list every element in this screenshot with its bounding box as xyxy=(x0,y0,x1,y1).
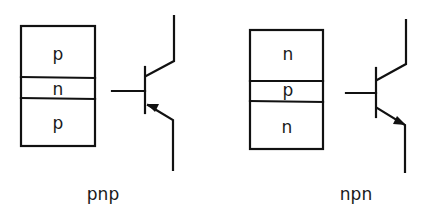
transistor-diagram: p n p pnp n p n npn xyxy=(0,0,431,218)
npn-layer-collector-label: n xyxy=(283,44,294,64)
pnp-caption: pnp xyxy=(87,184,119,204)
pnp-layer-base-label: n xyxy=(53,79,64,99)
npn-transistor-symbol xyxy=(346,20,406,172)
pnp-layer-stack: p n p xyxy=(21,26,95,146)
npn-layer-stack: n p n xyxy=(250,30,323,149)
pnp-emitter-lead xyxy=(148,105,173,170)
npn-junction-bottom xyxy=(250,101,323,102)
pnp-transistor-symbol xyxy=(112,16,174,170)
pnp-layer-collector-label: p xyxy=(53,113,64,133)
npn-collector-lead xyxy=(377,20,406,80)
pnp-layer-emitter-label: p xyxy=(53,44,64,64)
npn-emitter-arrow-icon xyxy=(393,116,406,125)
npn-caption: npn xyxy=(340,184,372,204)
pnp-collector-lead xyxy=(146,16,174,76)
npn-layer-emitter-label: n xyxy=(282,117,293,137)
npn-layer-base-label: p xyxy=(283,80,294,100)
pnp-junction-top xyxy=(21,77,95,78)
npn-emitter-lead xyxy=(377,108,405,172)
